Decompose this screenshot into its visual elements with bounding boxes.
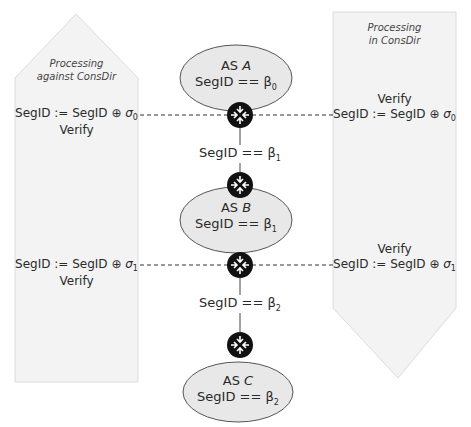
as-b-label: AS B SegID == β1 <box>181 200 291 235</box>
left-panel-title-line1: Processing <box>15 58 138 71</box>
as-b-condition: SegID == β1 <box>181 216 291 235</box>
as-a-name: AS A <box>181 58 291 74</box>
left-step0-op: SegID := SegID ⊕ σ0 <box>10 106 143 123</box>
left-step0: SegID := SegID ⊕ σ0 Verify <box>10 106 143 138</box>
right-step1: Verify SegID := SegID ⊕ σ1 <box>328 242 461 274</box>
router-icon <box>227 252 253 278</box>
right-step1-op: SegID := SegID ⊕ σ1 <box>328 257 461 274</box>
right-panel-title-line2: in ConsDir <box>333 35 456 48</box>
right-step0: Verify SegID := SegID ⊕ σ0 <box>328 92 461 124</box>
router-icon <box>227 102 253 128</box>
left-panel-title-line2: against ConsDir <box>15 71 138 84</box>
left-step1: SegID := SegID ⊕ σ1 Verify <box>10 257 143 289</box>
right-step1-verify: Verify <box>328 242 461 257</box>
as-b-name: AS B <box>181 200 291 216</box>
as-c-name: AS C <box>183 373 293 389</box>
left-step0-verify: Verify <box>10 123 143 138</box>
left-panel-title: Processing against ConsDir <box>15 58 138 83</box>
as-c-condition: SegID == β2 <box>183 389 293 408</box>
router-icon <box>227 332 253 358</box>
left-step1-op: SegID := SegID ⊕ σ1 <box>10 257 143 274</box>
as-a-condition: SegID == β0 <box>181 74 291 93</box>
link-ab-label: SegID == β1 <box>181 145 299 164</box>
right-step0-verify: Verify <box>328 92 461 107</box>
router-icon <box>227 172 253 198</box>
right-panel-title: Processing in ConsDir <box>333 22 456 47</box>
right-step0-op: SegID := SegID ⊕ σ0 <box>328 107 461 124</box>
right-processing-panel <box>333 12 456 378</box>
right-panel-title-line1: Processing <box>333 22 456 35</box>
as-c-label: AS C SegID == β2 <box>183 373 293 408</box>
link-bc-label: SegID == β2 <box>181 295 299 314</box>
left-step1-verify: Verify <box>10 274 143 289</box>
as-a-label: AS A SegID == β0 <box>181 58 291 93</box>
